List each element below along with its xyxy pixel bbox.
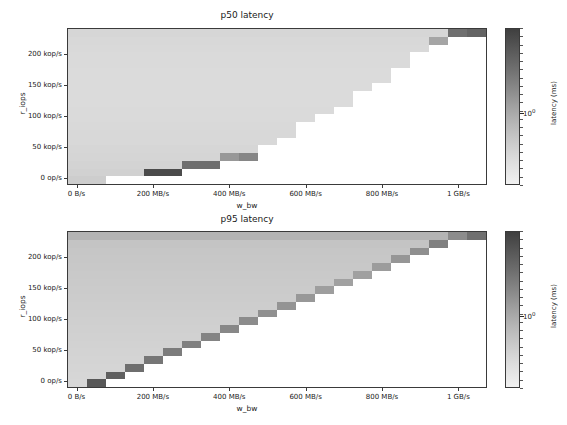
heatmap-cell — [68, 60, 87, 68]
heatmap-cell — [106, 45, 125, 53]
heatmap-p50 — [68, 29, 486, 184]
heatmap-cell — [448, 91, 467, 99]
x-tick-label: 800 MB/s — [366, 190, 398, 198]
heatmap-cell — [106, 372, 125, 380]
heatmap-cell — [277, 76, 296, 84]
heatmap-cell — [353, 317, 372, 325]
heatmap-cell — [391, 379, 410, 387]
heatmap-cell — [334, 240, 353, 248]
heatmap-cell — [429, 232, 448, 240]
heatmap-cell — [296, 356, 315, 364]
heatmap-cell — [163, 114, 182, 122]
heatmap-cell — [448, 232, 467, 240]
colorbar-tick-mark — [520, 297, 523, 298]
heatmap-cell — [182, 240, 201, 248]
heatmap-cell — [258, 114, 277, 122]
heatmap-cell — [277, 37, 296, 45]
y-tick-mark — [64, 116, 67, 117]
heatmap-cell — [239, 122, 258, 130]
heatmap-cell — [87, 161, 106, 169]
heatmap-cell — [182, 286, 201, 294]
y-tick-mark — [64, 178, 67, 179]
heatmap-cell — [334, 356, 353, 364]
heatmap-cell — [220, 176, 239, 184]
heatmap-cell — [68, 91, 87, 99]
heatmap-cell — [391, 333, 410, 341]
heatmap-cell — [372, 52, 391, 60]
heatmap-cell — [467, 60, 486, 68]
heatmap-cell — [315, 153, 334, 161]
colorbar-tick-mark — [520, 305, 523, 306]
heatmap-cell — [144, 29, 163, 37]
heatmap-cell — [87, 138, 106, 146]
heatmap-cell — [296, 153, 315, 161]
heatmap-cell — [106, 29, 125, 37]
heatmap-cell — [182, 45, 201, 53]
heatmap-cell — [315, 99, 334, 107]
heatmap-cell — [429, 60, 448, 68]
heatmap-cell — [163, 356, 182, 364]
x-axis-label-p50: w_bw — [0, 201, 494, 210]
heatmap-cell — [448, 333, 467, 341]
heatmap-cell — [220, 83, 239, 91]
heatmap-cell — [467, 341, 486, 349]
heatmap-cell — [182, 379, 201, 387]
heatmap-cell — [372, 122, 391, 130]
heatmap-cell — [258, 364, 277, 372]
heatmap-cell — [182, 83, 201, 91]
heatmap-cell — [467, 271, 486, 279]
heatmap-cell — [163, 294, 182, 302]
heatmap-cell — [258, 286, 277, 294]
x-tick-mark — [458, 185, 459, 188]
heatmap-cell — [144, 364, 163, 372]
heatmap-cell — [429, 145, 448, 153]
heatmap-cell — [125, 348, 144, 356]
heatmap-cell — [277, 145, 296, 153]
heatmap-cell — [334, 333, 353, 341]
heatmap-cell — [334, 372, 353, 380]
heatmap-cell — [220, 255, 239, 263]
heatmap-cell — [334, 379, 353, 387]
heatmap-cell — [334, 29, 353, 37]
heatmap-cell — [391, 29, 410, 37]
heatmap-cell — [334, 271, 353, 279]
heatmap-cell — [296, 122, 315, 130]
heatmap-cell — [68, 45, 87, 53]
heatmap-cell — [258, 107, 277, 115]
heatmap-cell — [144, 356, 163, 364]
heatmap-cell — [258, 153, 277, 161]
heatmap-cell — [125, 271, 144, 279]
heatmap-cell — [201, 176, 220, 184]
heatmap-cell — [144, 138, 163, 146]
heatmap-cell — [239, 45, 258, 53]
heatmap-cell — [410, 302, 429, 310]
heatmap-cell — [334, 255, 353, 263]
heatmap-cell — [372, 83, 391, 91]
heatmap-cell — [68, 52, 87, 60]
y-tick-label: 150 kop/s — [1, 81, 62, 89]
heatmap-cell — [391, 356, 410, 364]
heatmap-cell — [87, 76, 106, 84]
heatmap-cell — [125, 325, 144, 333]
heatmap-cell — [467, 372, 486, 380]
heatmap-cell — [429, 286, 448, 294]
heatmap-cell — [429, 348, 448, 356]
heatmap-cell — [334, 45, 353, 53]
heatmap-cell — [201, 372, 220, 380]
heatmap-cell — [106, 333, 125, 341]
heatmap-cell — [182, 248, 201, 256]
heatmap-cell — [144, 153, 163, 161]
heatmap-cell — [106, 240, 125, 248]
heatmap-cell — [391, 52, 410, 60]
heatmap-cell — [201, 333, 220, 341]
heatmap-cell — [410, 60, 429, 68]
heatmap-cell — [391, 317, 410, 325]
heatmap-cell — [239, 107, 258, 115]
heatmap-cell — [163, 122, 182, 130]
heatmap-cell — [467, 294, 486, 302]
heatmap-cell — [220, 310, 239, 318]
heatmap-cell — [448, 153, 467, 161]
heatmap-cell — [239, 302, 258, 310]
heatmap-cell — [106, 248, 125, 256]
heatmap-cell — [353, 130, 372, 138]
